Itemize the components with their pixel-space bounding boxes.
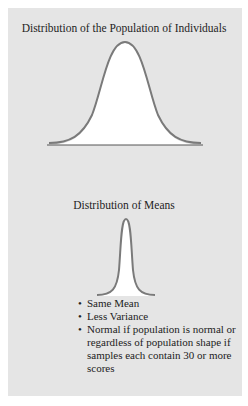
list-item: • Less Variance — [78, 310, 238, 323]
means-curve — [95, 219, 157, 296]
bullet-icon: • — [78, 297, 82, 310]
list-item-text: Normal if population is normal or regard… — [87, 323, 236, 374]
bullet-icon: • — [78, 323, 82, 336]
list-item: • Normal if population is normal or rega… — [78, 323, 238, 375]
list-item-text: Less Variance — [87, 310, 148, 322]
properties-list: • Same Mean • Less Variance • Normal if … — [78, 297, 238, 375]
population-curve — [47, 42, 203, 145]
list-item: • Same Mean — [78, 297, 238, 310]
means-distribution-title: Distribution of Means — [0, 198, 248, 212]
bullet-icon: • — [78, 310, 82, 323]
list-item-text: Same Mean — [87, 297, 139, 309]
